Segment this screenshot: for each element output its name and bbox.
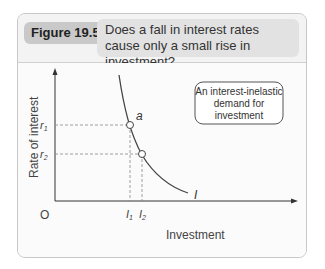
y-axis-arrow-icon <box>53 68 58 75</box>
annotation-line3: investment <box>215 110 264 121</box>
figure-label: Figure 19.5 <box>24 22 107 44</box>
origin-label: O <box>40 208 49 222</box>
demand-curve <box>119 75 188 193</box>
figure-card: Figure 19.5 Does a fall in interest rate… <box>17 13 307 258</box>
y-tick-r1: r1 <box>40 119 48 132</box>
point-b <box>139 151 146 158</box>
x-axis-label: Investment <box>166 228 225 242</box>
x-tick-i1: I1 <box>126 208 133 221</box>
figure-header: Figure 19.5 Does a fall in interest rate… <box>18 14 306 63</box>
x-axis-arrow-icon <box>291 199 298 204</box>
figure-title: Does a fall in interest rates cause only… <box>97 19 299 57</box>
chart: a I r1 r2 I1 I2 O Investment Rate of int… <box>18 63 306 258</box>
annotation-line1: An interest-inelastic <box>195 86 282 97</box>
annotation-line2: demand for <box>214 98 265 109</box>
y-axis-label: Rate of interest <box>27 96 41 178</box>
x-tick-i2: I2 <box>139 208 146 221</box>
chart-svg: a I r1 r2 I1 I2 O Investment Rate of int… <box>18 63 307 258</box>
point-a <box>127 122 134 129</box>
point-a-label: a <box>136 109 143 123</box>
y-tick-r2: r2 <box>40 148 48 161</box>
curve-label: I <box>194 188 198 202</box>
